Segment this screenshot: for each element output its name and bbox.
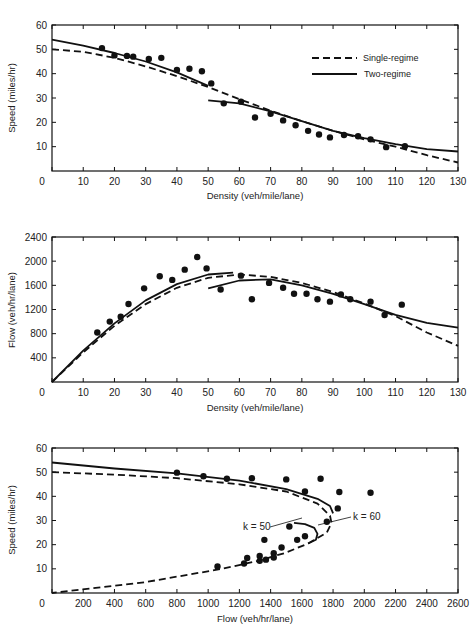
observed-data-point (286, 523, 292, 529)
observed-data-point (244, 555, 250, 561)
observed-data-point (271, 554, 277, 560)
x-tick-label: 200 (75, 598, 92, 609)
observed-data-point (221, 100, 227, 106)
observed-data-point (302, 533, 308, 539)
x-tick-label: 1800 (322, 598, 345, 609)
observed-data-point (327, 298, 333, 304)
x-tick-label: 80 (296, 387, 308, 398)
flow-density-chart: 0102030405060708090100110120130400800120… (25, 232, 467, 399)
observed-data-point (399, 301, 405, 307)
x-tick-label: 2000 (353, 598, 376, 609)
observed-data-point (367, 298, 373, 304)
x-tick-label: 100 (356, 387, 373, 398)
two-regime-curve (52, 463, 333, 514)
two-regime-curve (208, 279, 458, 327)
x-tick-label: 130 (450, 176, 467, 187)
y-tick-label: 2000 (25, 256, 48, 267)
observed-data-point (186, 66, 192, 72)
chart2-x-axis-title: Density (veh/mile/lane) (207, 402, 304, 413)
y-tick-label: 10 (36, 563, 48, 574)
x-tick-label: 30 (140, 176, 152, 187)
legend-two-regime-label: Two-regime (364, 69, 411, 79)
x-tick-label: 110 (388, 387, 404, 398)
observed-data-point (200, 473, 206, 479)
observed-data-point (305, 128, 311, 134)
observed-data-point (182, 266, 188, 272)
x-tick-label: 50 (203, 176, 215, 187)
annotation-k60-pointer (318, 517, 351, 525)
observed-data-point (208, 80, 214, 86)
observed-data-point (252, 114, 258, 120)
annotation-k60: k = 60 (353, 511, 381, 522)
x-tick-label: 100 (356, 176, 373, 187)
x-tick-label: 600 (137, 598, 154, 609)
x-tick-label: 1000 (197, 598, 220, 609)
traffic-flow-figure: 0102030405060708090100110120130102030405… (0, 0, 475, 627)
observed-data-point (327, 134, 333, 140)
x-tick-label: 2400 (416, 598, 439, 609)
observed-data-point (158, 55, 164, 61)
x-tick-label: 1600 (291, 598, 314, 609)
y-tick-label: 60 (36, 443, 48, 454)
observed-data-point (355, 133, 361, 139)
observed-data-point (111, 52, 117, 58)
x-tick-label: 20 (109, 387, 121, 398)
observed-data-point (249, 475, 255, 481)
observed-data-point (381, 312, 387, 318)
x-tick-label: 110 (388, 176, 404, 187)
observed-data-point (278, 544, 284, 550)
observed-data-point (367, 136, 373, 142)
x-tick-label: 20 (109, 176, 121, 187)
x-tick-label: 1400 (259, 598, 282, 609)
plot-frame (52, 25, 458, 171)
x-tick-label: 0 (39, 387, 45, 398)
x-tick-label: 2600 (447, 598, 470, 609)
observed-data-point (194, 254, 200, 260)
observed-data-point (241, 560, 247, 566)
observed-data-point (283, 476, 289, 482)
chart1-legend: Single-regime Two-regime (312, 53, 419, 79)
observed-data-point (324, 519, 330, 525)
observed-data-point (314, 296, 320, 302)
legend-single-regime-label: Single-regime (363, 53, 419, 63)
observed-data-point (141, 285, 147, 291)
x-tick-label: 60 (234, 387, 246, 398)
observed-data-point (169, 277, 175, 283)
observed-data-point (267, 111, 273, 117)
observed-data-point (335, 505, 341, 511)
x-tick-label: 800 (169, 598, 186, 609)
observed-data-point (224, 475, 230, 481)
observed-data-point (280, 285, 286, 291)
observed-data-point (336, 489, 342, 495)
x-tick-label: 40 (171, 387, 183, 398)
y-tick-label: 50 (36, 44, 48, 55)
x-tick-label: 0 (39, 176, 45, 187)
y-tick-label: 30 (36, 515, 48, 526)
y-tick-label: 2400 (25, 232, 48, 243)
observed-data-point (317, 475, 323, 481)
plot-frame (52, 237, 458, 382)
observed-data-point (174, 67, 180, 73)
chart3-x-axis-title: Flow (veh/hr/lane) (217, 613, 293, 624)
observed-data-point (94, 329, 100, 335)
observed-data-point (99, 45, 105, 51)
x-tick-label: 130 (450, 387, 467, 398)
observed-data-point (130, 53, 136, 59)
observed-data-point (280, 117, 286, 123)
observed-data-point (302, 488, 308, 494)
observed-data-point (238, 272, 244, 278)
single-regime-curve (52, 49, 458, 162)
speed-density-chart: 0102030405060708090100110120130102030405… (36, 20, 467, 188)
observed-data-point (341, 132, 347, 138)
y-tick-label: 20 (36, 539, 48, 550)
x-tick-label: 40 (171, 176, 183, 187)
observed-data-point (266, 280, 272, 286)
observed-data-point (383, 144, 389, 150)
x-tick-label: 120 (418, 176, 435, 187)
x-tick-label: 80 (296, 176, 308, 187)
y-tick-label: 1600 (25, 280, 48, 291)
two-regime-curve (208, 100, 458, 151)
observed-data-point (291, 291, 297, 297)
observed-data-point (174, 469, 180, 475)
observed-data-point (157, 273, 163, 279)
